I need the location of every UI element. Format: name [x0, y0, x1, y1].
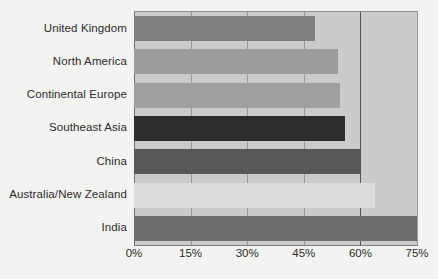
bar-united-kingdom	[134, 16, 315, 41]
bar-row	[134, 145, 417, 178]
bar-north-america	[134, 49, 338, 74]
x-tick-label-15: 15%	[179, 247, 202, 259]
category-label-north-america: North America	[0, 44, 131, 77]
category-label-southeast-asia: Southeast Asia	[0, 111, 131, 144]
category-label-continental-europe: Continental Europe	[0, 78, 131, 111]
bar-china	[134, 149, 360, 174]
bar-chart: United Kingdom North America Continental…	[0, 0, 438, 279]
bar-row	[134, 178, 417, 211]
bar-row	[134, 112, 417, 145]
category-label-australia-new-zealand: Australia/New Zealand	[0, 177, 131, 210]
category-label-china: China	[0, 144, 131, 177]
x-tick-label-30: 30%	[236, 247, 259, 259]
bar-series	[134, 12, 417, 245]
bar-southeast-asia	[134, 116, 345, 141]
x-tick-label-45: 45%	[292, 247, 315, 259]
category-label-united-kingdom: United Kingdom	[0, 11, 131, 44]
x-tick-label-0: 0%	[126, 247, 143, 259]
category-axis: United Kingdom North America Continental…	[0, 11, 131, 244]
bar-australia-new-zealand	[134, 183, 375, 208]
bar-india	[134, 216, 417, 241]
x-tick-label-75: 75%	[405, 247, 428, 259]
bar-row	[134, 212, 417, 245]
bar-continental-europe	[134, 83, 340, 108]
category-label-india: India	[0, 211, 131, 244]
value-axis: 0%15%30%45%60%75%	[134, 247, 418, 269]
gridline-75	[417, 12, 418, 245]
x-tick-label-60: 60%	[349, 247, 372, 259]
bar-row	[134, 45, 417, 78]
bar-row	[134, 79, 417, 112]
bar-row	[134, 12, 417, 45]
plot-area	[134, 11, 418, 246]
